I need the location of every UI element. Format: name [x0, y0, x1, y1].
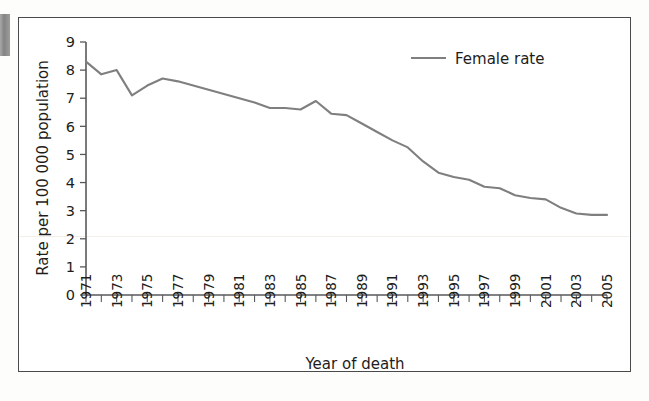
- y-tick-label: 9: [66, 34, 75, 50]
- x-tick-label: 1999: [507, 274, 523, 308]
- series-line-0: [86, 62, 607, 215]
- x-tick-label: 1983: [262, 274, 278, 308]
- x-axis: 1971197319751977197919811983198519871989…: [78, 274, 615, 308]
- x-tick-label: 1993: [415, 274, 431, 308]
- y-tick-label: 4: [66, 175, 75, 191]
- x-tick-label: 1981: [231, 274, 247, 308]
- x-tick-label: 1975: [139, 274, 155, 308]
- y-tick-label: 7: [66, 90, 75, 106]
- x-tick-label: 1991: [384, 274, 400, 308]
- figure-page: 0123456789 19711973197519771979198119831…: [0, 0, 649, 401]
- x-tick-label: 2003: [568, 274, 584, 308]
- y-axis-title: Rate per 100 000 population: [34, 60, 52, 275]
- chart-plot-area: 0123456789 19711973197519771979198119831…: [0, 0, 649, 401]
- x-tick-label: 2005: [599, 274, 615, 308]
- x-tick-label: 2001: [538, 274, 554, 308]
- x-axis-title: Year of death: [304, 355, 404, 373]
- x-tick-label: 1973: [109, 274, 125, 308]
- x-tick-label: 1977: [170, 274, 186, 308]
- y-tick-label: 0: [66, 287, 75, 303]
- legend-label-0: Female rate: [455, 50, 544, 68]
- y-tick-label: 5: [66, 147, 75, 163]
- data-series-group: [86, 62, 607, 215]
- x-tick-label: 1971: [78, 274, 94, 308]
- x-tick-label: 1979: [201, 274, 217, 308]
- x-tick-label: 1997: [476, 274, 492, 308]
- y-axis: 0123456789: [66, 34, 86, 303]
- x-tick-label: 1989: [354, 274, 370, 308]
- chart-legend: Female rate: [411, 50, 544, 68]
- y-tick-label: 2: [66, 231, 75, 247]
- y-tick-label: 8: [66, 62, 75, 78]
- y-tick-label: 1: [66, 259, 75, 275]
- x-tick-label: 1985: [293, 274, 309, 308]
- x-tick-label: 1987: [323, 274, 339, 308]
- x-tick-label: 1995: [446, 274, 462, 308]
- y-tick-label: 6: [66, 119, 75, 135]
- y-tick-label: 3: [66, 203, 75, 219]
- line-chart: 0123456789 19711973197519771979198119831…: [0, 0, 649, 401]
